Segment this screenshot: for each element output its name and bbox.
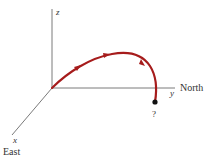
end-point-dot (152, 99, 157, 104)
east-label: East (3, 146, 20, 157)
x-axis (12, 88, 52, 135)
unknown-end-label: ? (152, 109, 156, 119)
z-axis-label: z (55, 7, 60, 17)
coordinate-diagram: z y North x East ? (0, 0, 206, 158)
y-axis-label: y (169, 88, 174, 98)
x-axis-label: x (12, 135, 17, 145)
north-label: North (180, 82, 203, 93)
